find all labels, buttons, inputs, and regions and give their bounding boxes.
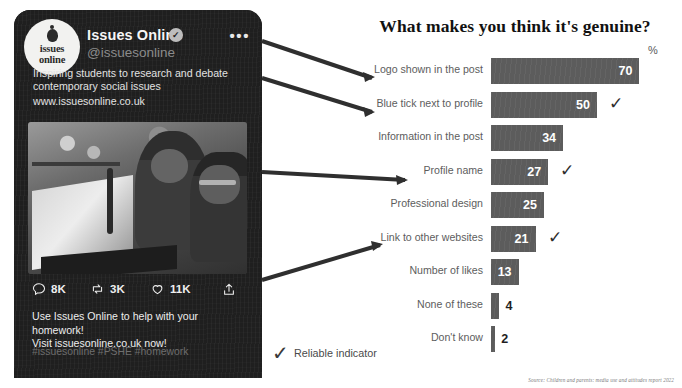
- bar-label: Number of likes: [355, 264, 483, 276]
- photo-glasses: [199, 180, 236, 185]
- percent-axis-label: %: [648, 44, 658, 56]
- bar-label: Link to other websites: [355, 231, 483, 243]
- bar-row: Information in the post 34: [356, 124, 674, 158]
- bar-label: Professional design: [355, 197, 483, 209]
- bar-label: Don't know: [355, 331, 483, 343]
- chart-title: What makes you think it's genuine?: [355, 16, 675, 37]
- bar-label: None of these: [355, 298, 483, 310]
- heart-icon: [150, 282, 165, 296]
- bio-text: Inspiring students to research and debat…: [33, 67, 228, 92]
- bar-fill[interactable]: 21: [491, 226, 536, 252]
- bar-fill[interactable]: 2: [491, 326, 495, 352]
- bar-track: 21: [491, 226, 536, 252]
- reliable-indicator-check-icon: ✓: [609, 93, 623, 115]
- bar-track: 50: [491, 92, 597, 118]
- tweet-photo: [28, 122, 247, 274]
- bar-value: 34: [542, 131, 563, 145]
- retweet-icon: [90, 282, 105, 296]
- bar-track: 13: [491, 259, 519, 285]
- bar-chart: Logo shown in the post 70 Blue tick next…: [356, 57, 674, 359]
- bar-track: 70: [491, 58, 639, 84]
- bar-fill[interactable]: 34: [491, 125, 563, 151]
- bar-row: Professional design 25: [356, 191, 674, 225]
- photo-shelf: [32, 162, 120, 166]
- share-button[interactable]: [222, 282, 236, 297]
- bar-track: 25: [491, 192, 544, 218]
- reliable-indicator-check-icon: ✓: [548, 227, 562, 249]
- tweet-card: issues online Issues Online ✓ ••• @issue…: [14, 10, 262, 378]
- bar-row: Blue tick next to profile 50 ✓: [356, 91, 674, 125]
- bar-track: 4: [491, 293, 499, 319]
- bar-row: Don't know 2: [356, 325, 674, 359]
- bar-fill[interactable]: 50: [491, 92, 597, 118]
- bar-label: Profile name: [355, 164, 483, 176]
- more-options-button[interactable]: •••: [229, 32, 250, 40]
- reliable-indicator-check-icon: ✓: [560, 160, 574, 182]
- avatar-text-line1: issues: [40, 44, 64, 55]
- share-icon: [222, 282, 236, 297]
- reply-count: 8K: [51, 283, 66, 295]
- bar-value: 2: [495, 332, 508, 346]
- retweet-button[interactable]: 3K: [90, 282, 125, 296]
- bar-track: 2: [491, 326, 495, 352]
- bar-fill[interactable]: 4: [491, 293, 499, 319]
- tweet-text: Use Issues Online to help with your home…: [32, 310, 250, 351]
- bar-label: Logo shown in the post: [355, 63, 483, 75]
- bar-value: 50: [576, 98, 597, 112]
- bar-row: Profile name 27 ✓: [356, 158, 674, 192]
- verified-badge-icon: ✓: [169, 28, 183, 42]
- avatar-text-line2: online: [39, 55, 65, 66]
- tweet-text-line1: Use Issues Online to help with your home…: [32, 310, 250, 337]
- bar-track: 27: [491, 159, 548, 185]
- bar-row: None of these 4: [356, 292, 674, 326]
- bar-row: Logo shown in the post 70: [356, 57, 674, 91]
- infographic-page: issues online Issues Online ✓ ••• @issue…: [0, 0, 682, 388]
- bar-row: Link to other websites 21 ✓: [356, 225, 674, 259]
- photo-microphone: [107, 168, 113, 235]
- like-count: 11K: [170, 283, 190, 295]
- bar-value: 13: [498, 265, 519, 279]
- bar-label: Information in the post: [355, 130, 483, 142]
- legend-label: Reliable indicator: [294, 347, 377, 359]
- tweet-action-bar: 8K 3K 11K: [32, 282, 246, 302]
- bar-value: 25: [523, 198, 544, 212]
- account-bio: Inspiring students to research and debat…: [33, 67, 249, 108]
- retweet-count: 3K: [110, 283, 125, 295]
- bar-label: Blue tick next to profile: [355, 97, 483, 109]
- bar-fill[interactable]: 13: [491, 259, 519, 285]
- bar-value: 27: [527, 165, 548, 179]
- like-button[interactable]: 11K: [150, 282, 190, 296]
- source-note: Source: Children and parents: media use …: [528, 377, 674, 383]
- bar-fill[interactable]: 25: [491, 192, 544, 218]
- bar-value: 4: [499, 299, 512, 313]
- bar-fill[interactable]: 70: [491, 58, 639, 84]
- chart-legend: ✓ Reliable indicator: [272, 344, 377, 362]
- check-icon: ✓: [272, 344, 289, 362]
- bar-row: Number of likes 13: [356, 258, 674, 292]
- photo-face-left: [151, 149, 188, 182]
- bar-track: 34: [491, 125, 563, 151]
- tweet-hashtags: #issuesonline #PSHE #homework: [32, 346, 189, 357]
- account-handle: @issuesonline: [87, 45, 175, 60]
- bio-url[interactable]: www.issuesonline.co.uk: [33, 95, 249, 108]
- reply-icon: [32, 282, 46, 296]
- bar-value: 70: [618, 64, 639, 78]
- bar-value: 21: [515, 232, 536, 246]
- reply-button[interactable]: 8K: [32, 282, 66, 296]
- avatar-logo-mark: [47, 29, 58, 42]
- bar-fill[interactable]: 27: [491, 159, 548, 185]
